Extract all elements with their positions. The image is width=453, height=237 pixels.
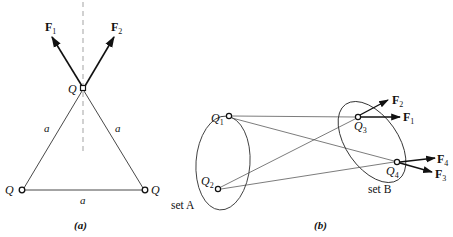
charge-label-q4: Q4	[386, 164, 399, 180]
force-label-f1: F1	[45, 20, 56, 36]
force-label-q3-f1: F1	[403, 110, 414, 126]
side-right	[84, 91, 143, 188]
set-a-boundary	[193, 114, 253, 212]
caption-a: (a)	[74, 219, 87, 232]
charge-label-q1: Q1	[211, 111, 224, 127]
force-arrow-q4-f4	[400, 158, 435, 162]
charge-bottom-right-marker	[142, 187, 148, 193]
charge-label-q2: Q2	[201, 174, 214, 190]
set-b-label: set B	[368, 183, 392, 195]
set-a-label: set A	[171, 199, 195, 211]
set-b-boundary	[324, 89, 419, 194]
charge-label-bottom-right: Q	[151, 183, 160, 197]
figure-a: F1 F2 Q Q Q a a a (a)	[5, 2, 160, 232]
charge-bottom-left-marker	[19, 187, 25, 193]
force-arrow-q3-f2	[360, 100, 388, 115]
charge-q1-marker	[226, 113, 231, 118]
link-q1-q3	[232, 116, 355, 117]
force-label-q4-f4: F4	[437, 152, 448, 168]
charge-q2-marker	[215, 186, 220, 191]
force-arrow-f1	[52, 37, 82, 86]
diagram-canvas: F1 F2 Q Q Q a a a (a) Q1 Q2 Q3 Q4 F2 F1 …	[0, 0, 453, 237]
figure-b: Q1 Q2 Q3 Q4 F2 F1 F4 F3 set A set B (b)	[171, 89, 448, 232]
force-label-q3-f2: F2	[392, 93, 403, 109]
side-left	[24, 91, 82, 188]
caption-b: (b)	[314, 219, 327, 232]
charge-label-q3: Q3	[354, 119, 367, 135]
force-label-f2: F2	[111, 20, 122, 36]
link-q1-q4	[232, 118, 394, 161]
side-label-bottom: a	[80, 194, 86, 206]
link-q2-q3	[221, 119, 355, 187]
side-label-right: a	[115, 122, 121, 134]
charge-label-bottom-left: Q	[5, 183, 14, 197]
force-label-q4-f3: F3	[435, 167, 446, 183]
charge-q4-marker	[394, 159, 399, 164]
charge-label-apex: Q	[68, 82, 77, 96]
side-label-left: a	[44, 122, 50, 134]
charge-apex-marker	[81, 86, 86, 91]
force-arrow-f2	[85, 37, 114, 86]
